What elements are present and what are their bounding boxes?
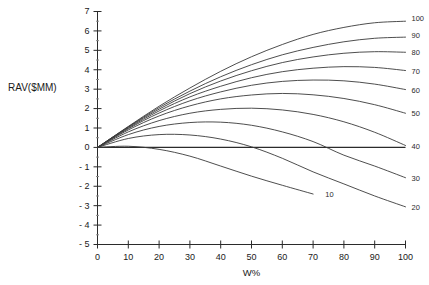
curve-70 [98, 67, 406, 148]
y-tick-label: 3 [84, 84, 89, 94]
x-tick-label: 10 [123, 252, 133, 262]
x-tick-label: 30 [185, 252, 195, 262]
curve-label-60: 60 [412, 86, 420, 95]
y-tick-label: - 1 [79, 162, 90, 172]
y-tick-label: 1 [84, 123, 89, 133]
x-tick-label: 90 [370, 252, 380, 262]
curve-label-70: 70 [412, 67, 420, 76]
x-tick-label: 40 [216, 252, 226, 262]
rav-vs-w-line-chart: 76543210- 1- 2- 3- 4- 501020304050607080… [0, 0, 429, 285]
curve-label-90: 90 [412, 31, 420, 40]
y-tick-label: 2 [84, 103, 89, 113]
curve-label-80: 80 [412, 48, 420, 57]
curve-label-10: 10 [325, 190, 333, 199]
y-tick-label: 7 [84, 6, 89, 16]
x-tick-label: 100 [398, 252, 413, 262]
x-tick-label: 0 [95, 252, 100, 262]
y-tick-label: 5 [84, 45, 89, 55]
y-tick-label: - 5 [79, 239, 90, 249]
curve-label-40: 40 [412, 142, 420, 151]
x-tick-label: 70 [308, 252, 318, 262]
y-tick-label: 6 [84, 26, 89, 36]
y-tick-label: - 3 [79, 201, 90, 211]
x-tick-label: 50 [246, 252, 256, 262]
curve-label-100: 100 [412, 14, 425, 23]
curve-label-30: 30 [412, 174, 420, 183]
curve-20 [98, 134, 406, 207]
y-axis-title: RAV($MM) [8, 82, 57, 93]
y-tick-label: 0 [84, 142, 89, 152]
curve-90 [98, 37, 406, 147]
x-tick-label: 20 [154, 252, 164, 262]
x-tick-label: 60 [277, 252, 287, 262]
chart-container: 76543210- 1- 2- 3- 4- 501020304050607080… [0, 0, 429, 285]
curve-10 [98, 146, 314, 194]
curve-80 [98, 52, 406, 148]
y-tick-label: 4 [84, 65, 89, 75]
y-tick-label: - 4 [79, 220, 90, 230]
x-axis-title: W% [243, 267, 261, 278]
curve-40 [98, 108, 406, 147]
curve-label-50: 50 [412, 109, 420, 118]
x-tick-label: 80 [339, 252, 349, 262]
curve-60 [98, 80, 406, 147]
curve-30 [98, 122, 406, 178]
y-tick-label: - 2 [79, 181, 90, 191]
curve-label-20: 20 [412, 203, 420, 212]
